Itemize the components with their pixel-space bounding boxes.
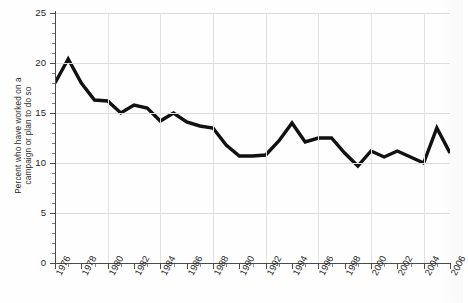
y-tick-minor-22 bbox=[52, 43, 55, 44]
y-tick-minor-4 bbox=[52, 223, 55, 224]
y-tick-25 bbox=[50, 13, 55, 14]
y-tick-minor-16 bbox=[52, 103, 55, 104]
y-tick-label-10: 10 bbox=[24, 157, 46, 168]
y-tick-minor-24 bbox=[52, 23, 55, 24]
gridline-y-25 bbox=[55, 13, 450, 14]
y-tick-minor-14 bbox=[52, 123, 55, 124]
y-tick-minor-6 bbox=[52, 203, 55, 204]
x-tick-minor-1999 bbox=[358, 264, 359, 267]
x-tick-minor-1977 bbox=[68, 264, 69, 267]
gridline-y-15 bbox=[55, 113, 450, 114]
x-tick-minor-1989 bbox=[226, 264, 227, 267]
x-tick-minor-2003 bbox=[411, 264, 412, 267]
x-tick-minor-1981 bbox=[121, 264, 122, 267]
y-tick-minor-9 bbox=[52, 173, 55, 174]
y-tick-minor-2 bbox=[52, 243, 55, 244]
gridline-x-2004 bbox=[424, 13, 425, 263]
y-tick-label-20: 20 bbox=[24, 57, 46, 68]
y-axis-label-line-1: Percent who have worked on a bbox=[14, 21, 23, 251]
y-tick-minor-12 bbox=[52, 143, 55, 144]
gridline-y-10 bbox=[55, 163, 450, 164]
y-tick-label-5: 5 bbox=[24, 207, 46, 218]
y-tick-minor-19 bbox=[52, 73, 55, 74]
x-tick-minor-1983 bbox=[147, 264, 148, 267]
y-tick-minor-1 bbox=[52, 253, 55, 254]
y-tick-minor-17 bbox=[52, 93, 55, 94]
y-tick-minor-3 bbox=[52, 233, 55, 234]
data-series-line bbox=[55, 13, 450, 263]
gridline-x-1988 bbox=[213, 13, 214, 263]
gridline-x-1992 bbox=[266, 13, 267, 263]
x-tick-minor-1995 bbox=[305, 264, 306, 267]
y-tick-minor-11 bbox=[52, 153, 55, 154]
y-tick-20 bbox=[50, 63, 55, 64]
gridline-x-1996 bbox=[318, 13, 319, 263]
x-tick-minor-2005 bbox=[437, 264, 438, 267]
x-tick-minor-1993 bbox=[279, 264, 280, 267]
y-tick-minor-8 bbox=[52, 183, 55, 184]
plot-area bbox=[55, 13, 450, 263]
y-tick-label-15: 15 bbox=[24, 107, 46, 118]
y-axis-line bbox=[55, 11, 56, 265]
gridline-x-2000 bbox=[371, 13, 372, 263]
x-tick-label-2006: 2006 bbox=[448, 254, 468, 278]
x-tick-minor-1979 bbox=[95, 264, 96, 267]
y-tick-minor-18 bbox=[52, 83, 55, 84]
y-tick-10 bbox=[50, 163, 55, 164]
x-tick-minor-1997 bbox=[332, 264, 333, 267]
x-tick-minor-2001 bbox=[384, 264, 385, 267]
x-tick-minor-1987 bbox=[200, 264, 201, 267]
y-tick-minor-7 bbox=[52, 193, 55, 194]
y-tick-15 bbox=[50, 113, 55, 114]
y-tick-minor-13 bbox=[52, 133, 55, 134]
gridline-y-5 bbox=[55, 213, 450, 214]
gridline-x-1984 bbox=[160, 13, 161, 263]
gridline-x-1980 bbox=[108, 13, 109, 263]
x-tick-minor-1991 bbox=[253, 264, 254, 267]
gridline-y-20 bbox=[55, 63, 450, 64]
y-tick-label-0: 0 bbox=[24, 257, 46, 268]
x-tick-minor-1985 bbox=[174, 264, 175, 267]
y-tick-label-25: 25 bbox=[24, 7, 46, 18]
y-tick-minor-21 bbox=[52, 53, 55, 54]
y-tick-5 bbox=[50, 213, 55, 214]
y-tick-minor-23 bbox=[52, 33, 55, 34]
